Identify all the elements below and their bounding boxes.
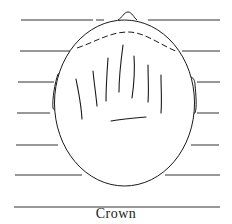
nose-bump xyxy=(118,12,137,20)
figure-caption: Crown xyxy=(0,206,232,222)
head-outline xyxy=(55,20,195,186)
crown-diagram xyxy=(0,0,232,224)
head xyxy=(53,12,196,186)
